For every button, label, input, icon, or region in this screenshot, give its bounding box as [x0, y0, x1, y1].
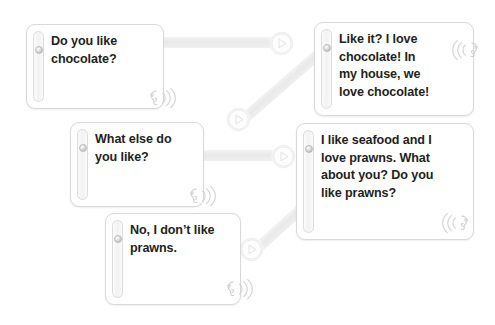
- play-node-chocolate[interactable]: [270, 32, 293, 55]
- card-handle-knob[interactable]: [114, 235, 122, 243]
- card-text: I like seafood and I love prawns. What a…: [321, 132, 465, 202]
- card-drag-handle[interactable]: [303, 130, 314, 233]
- play-node-no-prawns[interactable]: [240, 238, 263, 261]
- card-text: Like it? I love chocolate! In my house, …: [339, 31, 465, 101]
- card-drag-handle[interactable]: [112, 220, 123, 298]
- connector-what-else-to-node: [203, 150, 281, 161]
- play-triangle-icon: [273, 146, 294, 167]
- play-triangle-icon: [228, 109, 249, 130]
- card-do-you-like-chocolate[interactable]: Do you like chocolate?: [26, 24, 164, 109]
- play-triangle-icon: [241, 239, 262, 260]
- card-drag-handle[interactable]: [77, 129, 88, 200]
- speaker-listen-icon[interactable]: [183, 185, 217, 207]
- play-node-what-else[interactable]: [272, 145, 295, 168]
- card-body: No, I don’t like prawns.: [130, 222, 232, 298]
- connector-node-to-chocolate-answer: [239, 51, 320, 124]
- card-text: Do you like chocolate?: [51, 33, 155, 68]
- dialogue-canvas: Do you like chocolate?Like it? I love ch…: [0, 0, 495, 325]
- card-drag-handle[interactable]: [33, 31, 44, 102]
- card-handle-knob[interactable]: [35, 46, 43, 54]
- speaker-listen-icon[interactable]: [451, 39, 485, 61]
- card-body: Like it? I love chocolate! In my house, …: [339, 31, 465, 109]
- card-body: I like seafood and I love prawns. What a…: [321, 132, 465, 233]
- play-triangle-icon: [271, 33, 292, 54]
- card-what-else-do-you-like[interactable]: What else do you like?: [70, 122, 204, 207]
- card-text: No, I don’t like prawns.: [130, 222, 232, 257]
- card-text: What else do you like?: [95, 131, 195, 166]
- play-node-chocolate-answer[interactable]: [227, 108, 250, 131]
- card-body: What else do you like?: [95, 131, 195, 200]
- speaker-listen-icon[interactable]: [220, 278, 254, 300]
- connector-chocolate-question-to-node: [163, 37, 281, 48]
- card-body: Do you like chocolate?: [51, 33, 155, 102]
- speaker-listen-icon[interactable]: [441, 212, 475, 234]
- card-like-it-i-love-chocolate[interactable]: Like it? I love chocolate! In my house, …: [314, 22, 474, 116]
- card-drag-handle[interactable]: [321, 29, 332, 109]
- card-i-like-seafood-and-i-love-prawns[interactable]: I like seafood and I love prawns. What a…: [296, 123, 474, 240]
- card-handle-knob[interactable]: [79, 144, 87, 152]
- card-no-i-dont-like-prawns[interactable]: No, I don’t like prawns.: [105, 213, 241, 305]
- speaker-listen-icon[interactable]: [143, 87, 177, 109]
- card-handle-knob[interactable]: [305, 145, 313, 153]
- card-handle-knob[interactable]: [323, 44, 331, 52]
